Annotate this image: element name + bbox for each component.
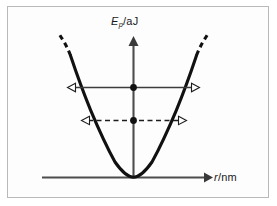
lower-level-right-arrowhead-icon bbox=[179, 116, 187, 124]
y-axis-label-units: /aJ bbox=[123, 15, 138, 27]
lower-level-left-arrowhead-icon bbox=[82, 116, 90, 124]
x-axis-arrowhead-icon bbox=[204, 173, 213, 183]
x-axis-label-units: /nm bbox=[218, 171, 237, 183]
x-axis-label: r/nm bbox=[214, 172, 237, 183]
curve-extension-right bbox=[197, 33, 209, 56]
upper-level-right-arrowhead-icon bbox=[192, 83, 200, 92]
curve-extension-left bbox=[59, 33, 71, 56]
upper-level-left-arrowhead-icon bbox=[68, 83, 76, 92]
y-axis-label-variable: E bbox=[111, 15, 119, 27]
y-axis-label: Ep/aJ bbox=[111, 16, 138, 29]
figure-root: Ep/aJ r/nm bbox=[0, 0, 277, 206]
lower-level-center-dot bbox=[130, 117, 137, 124]
upper-level-center-dot bbox=[130, 84, 137, 91]
y-axis-arrowhead-icon bbox=[129, 36, 139, 46]
y-axis bbox=[129, 36, 139, 178]
upper-level-arrow bbox=[68, 83, 200, 92]
